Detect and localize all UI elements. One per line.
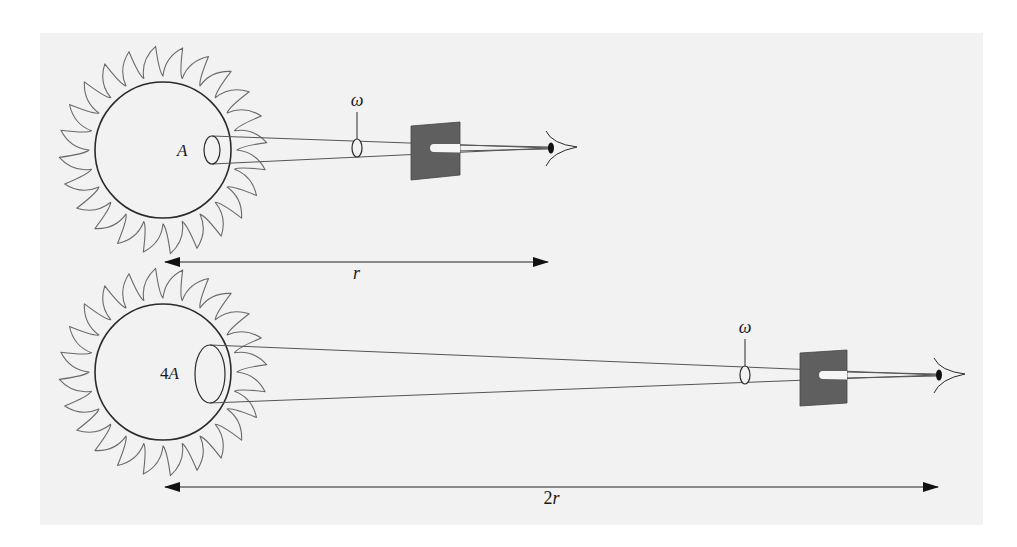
figure-canvas: A ω r 4A ω 2r	[0, 0, 1017, 547]
area-label: A	[176, 141, 188, 160]
aperture-slit	[430, 144, 460, 153]
distance-label: 2r	[543, 488, 560, 508]
distance-label: r	[353, 263, 361, 283]
aperture-slit	[819, 371, 847, 380]
solid-angle-label: ω	[351, 90, 364, 110]
diagram-svg: A ω r 4A ω 2r	[0, 0, 1017, 547]
solid-angle-label: ω	[739, 317, 752, 337]
pupil	[936, 370, 942, 381]
solid-angle-ellipse	[352, 139, 362, 157]
area-label: 4A	[160, 364, 180, 383]
solid-angle-ellipse	[740, 366, 750, 384]
pupil	[548, 143, 554, 154]
